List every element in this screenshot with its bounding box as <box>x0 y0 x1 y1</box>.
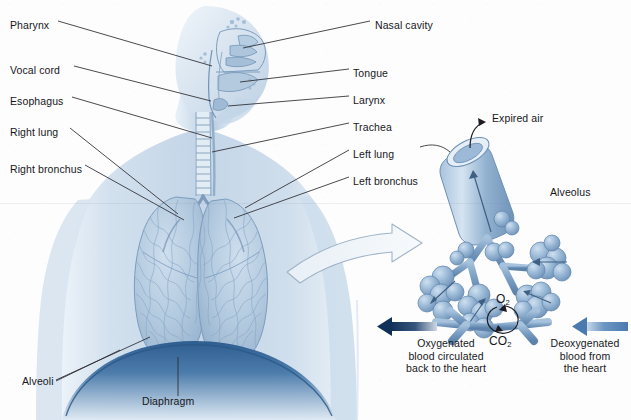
label-left-bronchus: Left bronchus <box>353 175 418 188</box>
label-trachea: Trachea <box>353 121 392 134</box>
anatomy-illustration <box>0 0 631 420</box>
caption-deoxygenated-line-1: Deoxygenated <box>551 337 620 349</box>
oxygen-subscript: 2 <box>505 298 509 307</box>
label-esophagus: Esophagus <box>10 95 63 108</box>
label-left-lung: Left lung <box>353 148 394 161</box>
oxygenated-arrow <box>377 317 437 336</box>
leader-bronchiole <box>420 145 450 152</box>
label-pharynx: Pharynx <box>10 19 49 32</box>
label-larynx: Larynx <box>353 94 385 107</box>
caption-deoxygenated-line-3: the heart <box>564 362 606 374</box>
deoxygenated-arrow <box>572 317 628 336</box>
alveolus-detail <box>418 118 571 342</box>
caption-oxygenated-line-2: blood circulated <box>408 350 483 362</box>
caption-deoxygenated-line-2: blood from <box>560 350 611 362</box>
label-alveoli: Alveoli <box>22 375 54 388</box>
label-alveolus: Alveolus <box>550 186 591 199</box>
label-right-lung: Right lung <box>10 126 58 139</box>
label-oxygen: O2 <box>496 293 510 309</box>
caption-oxygenated-line-1: Oxygenated <box>417 337 475 349</box>
body-right-edge <box>357 300 358 420</box>
caption-oxygenated-line-3: back to the heart <box>406 362 486 374</box>
label-nasal-cavity: Nasal cavity <box>375 19 433 32</box>
bronchiole-tube <box>440 131 514 244</box>
respiratory-system-figure: Pharynx Vocal cord Esophagus Right lung … <box>0 0 631 420</box>
caption-oxygenated-flow: Oxygenated blood circulated back to the … <box>386 337 506 375</box>
alveolar-sac-right <box>527 235 571 281</box>
label-right-bronchus: Right bronchus <box>10 163 82 176</box>
label-tongue: Tongue <box>353 67 388 80</box>
label-diaphragm: Diaphragm <box>142 395 194 408</box>
caption-deoxygenated-flow: Deoxygenated blood from the heart <box>539 337 631 375</box>
carbon-dioxide-subscript: 2 <box>507 340 511 349</box>
label-vocal-cord: Vocal cord <box>10 64 60 77</box>
leader-trachea <box>212 123 349 152</box>
label-expired-air: Expired air <box>492 112 543 125</box>
leader-nasal-cavity <box>243 21 370 48</box>
